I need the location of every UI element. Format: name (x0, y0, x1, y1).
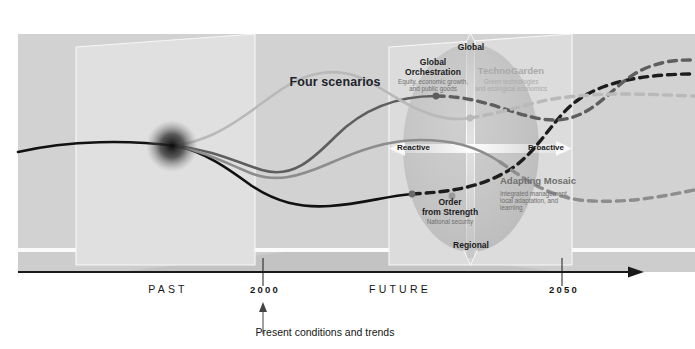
quadrant-order-from-strength: Order from Strength National security (422, 198, 478, 225)
quadrant-title-line: Adapting Mosaic (500, 176, 576, 186)
timeline-label-future: FUTURE (369, 283, 431, 295)
quadrant-title-line: TechnoGarden (475, 66, 547, 76)
scenario-diagram (0, 0, 695, 349)
quadrant-subtitle-line: Green technologies (475, 78, 547, 85)
branch-point-node (146, 120, 198, 172)
quadrant-subtitle-line: learning (500, 204, 576, 211)
quadrant-title-line: Orchestration (398, 68, 468, 78)
timeline-tick-2000: 2000 (250, 284, 280, 295)
endpoint-global-orchestration (433, 93, 440, 100)
timeline-tick-2050: 2050 (549, 284, 579, 295)
quadrant-subtitle-line: and ecological economics (475, 85, 547, 92)
timeline-label-past: PAST (148, 283, 187, 295)
axis-label-global: Global (458, 42, 484, 52)
quadrant-subtitle-line: Integrated management, (500, 190, 576, 197)
endpoint-technogarden (467, 115, 474, 122)
axis-label-proactive: Proactive (528, 143, 564, 152)
figure-caption: Present conditions and trends (256, 326, 395, 338)
quadrant-subtitle-line: Equity, economic growth, (398, 78, 468, 85)
quadrant-global-orchestration: Global Orchestration Equity, economic gr… (398, 58, 468, 93)
quadrant-subtitle-line: and public goods (398, 85, 468, 92)
quadrant-technogarden: TechnoGarden Green technologies and ecol… (475, 66, 547, 92)
endpoint-order-from-strength (409, 191, 416, 198)
axis-label-regional: Regional (453, 240, 489, 250)
axis-label-reactive: Reactive (397, 143, 430, 152)
quadrant-title-line: from Strength (422, 208, 478, 218)
quadrant-subtitle-line: local adaptation, and (500, 197, 576, 204)
figure-root: Four scenarios Global Regional Reactive … (0, 0, 695, 349)
page-title: Four scenarios (289, 75, 380, 89)
quadrant-adapting-mosaic: Adapting Mosaic Integrated management, l… (500, 176, 576, 211)
quadrant-subtitle-line: National security (422, 218, 478, 225)
